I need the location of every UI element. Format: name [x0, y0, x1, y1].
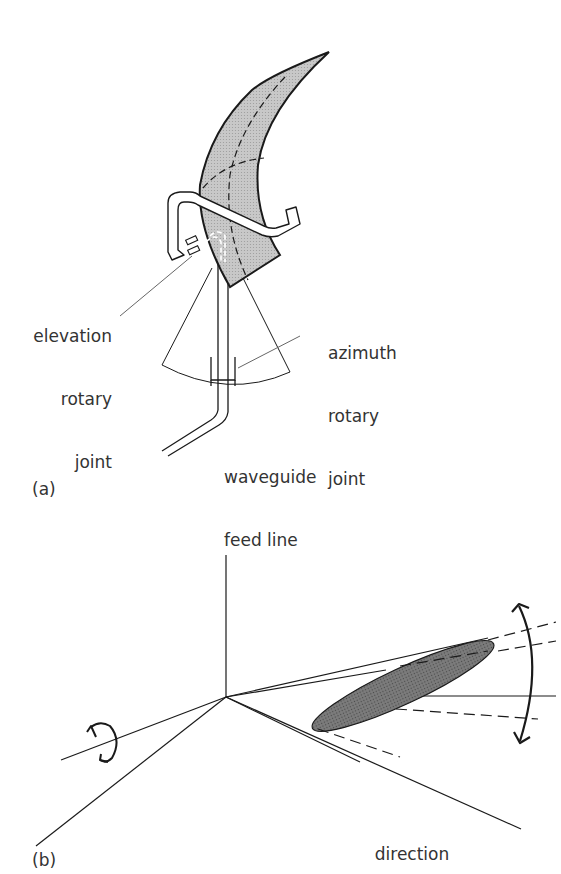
label-line: rotary: [328, 406, 397, 427]
panel-label-b: (b): [32, 850, 56, 871]
panel-label-a: (a): [32, 479, 56, 500]
axis-left: [61, 697, 226, 760]
azimuth-sweep-sector: [162, 268, 290, 384]
elevation-rotation-arrow-icon: [512, 604, 532, 743]
figure-b: [36, 555, 556, 846]
azimuth-rotary-joint-label: azimuth rotary joint: [328, 301, 397, 511]
beam-ellipse: [305, 627, 501, 744]
label-line: feed line: [224, 530, 316, 551]
axis-down-left: [36, 697, 226, 846]
label-line: elevation: [26, 326, 112, 347]
reflector-dish: [200, 52, 329, 287]
label-line: rotary: [26, 389, 112, 410]
waveguide-feed-line-label: waveguide feed line: [224, 425, 316, 572]
label-line: azimuth: [328, 343, 397, 364]
elevation-rotary-joint-label: elevation rotary joint: [26, 284, 112, 494]
azimuth-rotary-joint-icon: [211, 357, 235, 386]
figure-a: [120, 52, 329, 456]
azimuth-direction-label: direction of azimuth pointing: [352, 802, 472, 874]
elevation-rotary-joint-icon: [186, 236, 198, 245]
waveguide-feed-line: [162, 393, 228, 456]
label-line: joint: [26, 452, 112, 473]
label-line: waveguide: [224, 467, 316, 488]
label-line: direction: [352, 844, 472, 865]
label-line: joint: [328, 469, 397, 490]
azimuth-rotation-arrow-icon: [87, 723, 117, 762]
